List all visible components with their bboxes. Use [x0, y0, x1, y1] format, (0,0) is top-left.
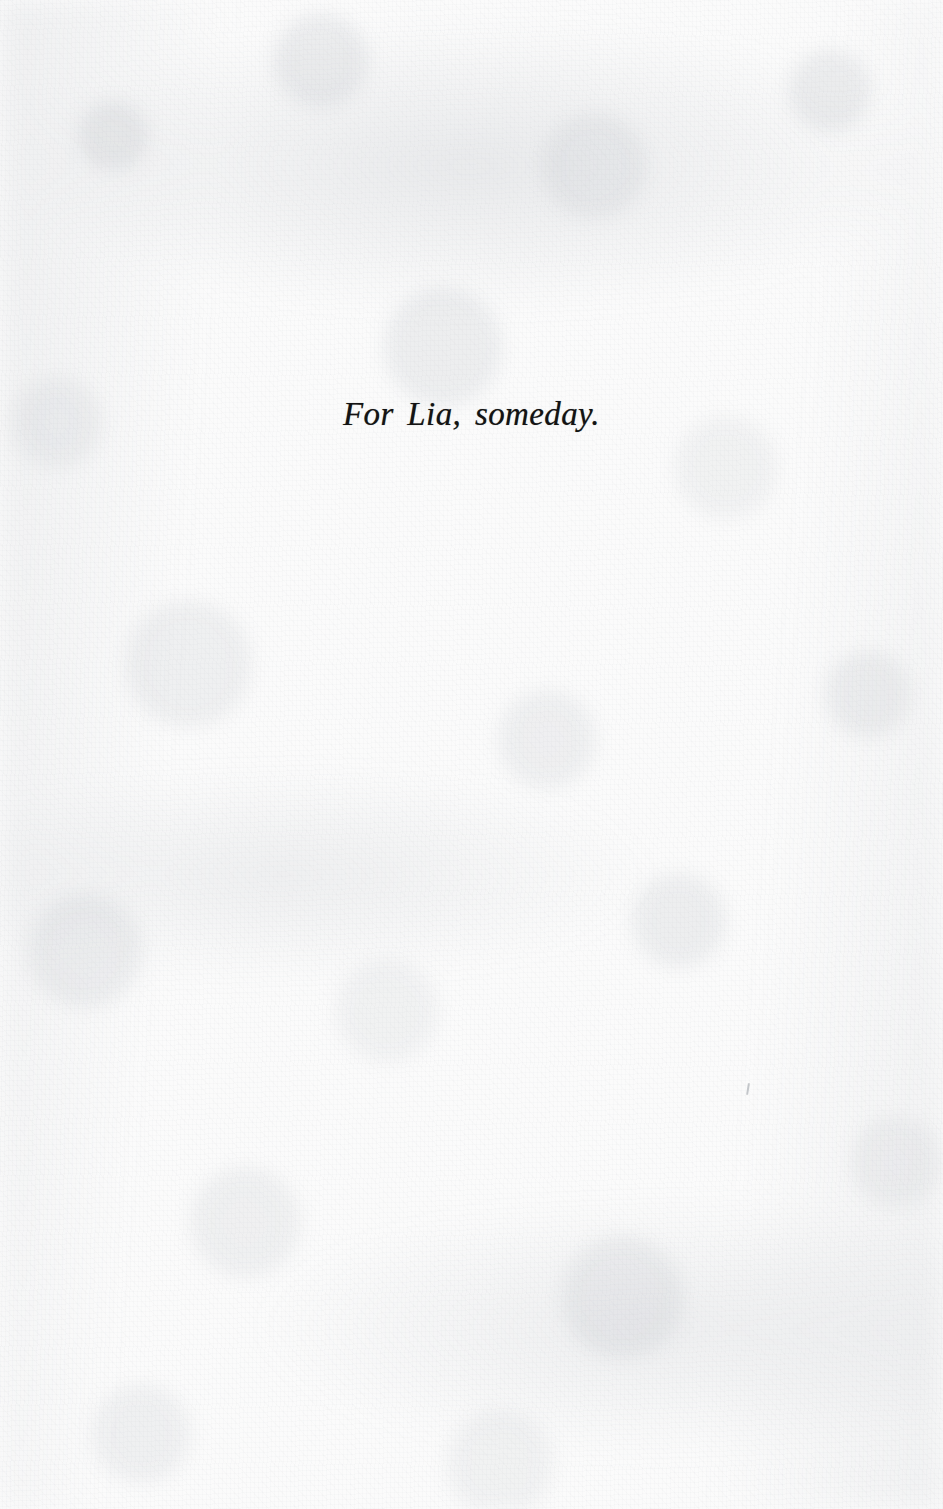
dedication-text: For Lia, someday.	[0, 392, 943, 436]
paper-texture-scan-shading	[0, 0, 943, 1509]
paper-texture-mottling	[0, 0, 943, 1509]
scanned-book-page: For Lia, someday.	[0, 0, 943, 1509]
scan-artifact-speck	[746, 1083, 750, 1095]
paper-texture-fibers	[0, 0, 943, 1509]
